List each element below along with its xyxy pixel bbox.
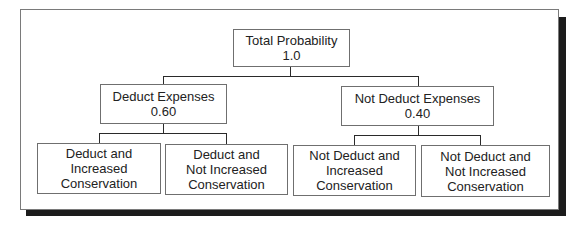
node-not-deduct-expenses: Not Deduct Expenses 0.40 xyxy=(341,86,494,126)
node-not-deduct-not-increased-conservation: Not Deduct and Not Increased Conservatio… xyxy=(421,145,550,197)
node-line: Deduct and xyxy=(66,146,133,161)
node-line: Conservation xyxy=(188,177,265,192)
node-deduct-not-increased-conservation: Deduct and Not Increased Conservation xyxy=(165,144,288,195)
node-deduct-expenses: Deduct Expenses 0.60 xyxy=(100,84,227,124)
node-line: Increased xyxy=(326,163,383,178)
node-label: Deduct Expenses xyxy=(113,89,215,104)
node-line: Increased xyxy=(70,161,127,176)
node-line: Conservation xyxy=(447,179,524,194)
connector-deduct-horizontal xyxy=(99,133,227,134)
connector-notdeduct-stem xyxy=(418,125,419,135)
node-line: Conservation xyxy=(316,178,393,193)
connector-root-left-drop xyxy=(163,76,164,84)
connector-notdeduct-horizontal xyxy=(354,135,481,136)
connector-notdeduct-left-drop xyxy=(354,135,355,145)
connector-root-stem xyxy=(290,66,291,76)
connector-root-horizontal xyxy=(163,76,419,77)
connector-deduct-left-drop xyxy=(99,133,100,143)
node-label: Total Probability xyxy=(246,33,338,48)
node-deduct-increased-conservation: Deduct and Increased Conservation xyxy=(37,143,161,194)
node-not-deduct-increased-conservation: Not Deduct and Increased Conservation xyxy=(293,145,416,196)
node-line: Conservation xyxy=(61,176,138,191)
node-total-probability: Total Probability 1.0 xyxy=(233,29,350,67)
node-line: Not Increased xyxy=(445,164,526,179)
connector-notdeduct-right-drop xyxy=(480,135,481,145)
connector-deduct-right-drop xyxy=(226,133,227,144)
node-line: Not Deduct and xyxy=(309,148,399,163)
node-label: Not Deduct Expenses xyxy=(355,91,481,106)
node-value: 0.60 xyxy=(151,104,176,119)
node-line: Not Deduct and xyxy=(440,149,530,164)
node-line: Not Increased xyxy=(186,162,267,177)
node-value: 0.40 xyxy=(405,106,430,121)
connector-root-right-drop xyxy=(418,76,419,86)
node-value: 1.0 xyxy=(282,48,300,63)
node-line: Deduct and xyxy=(193,147,260,162)
